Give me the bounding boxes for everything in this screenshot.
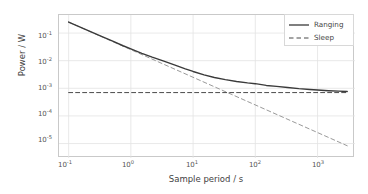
y-tick-label-4: 10-5 xyxy=(18,136,52,144)
y-tick-label-0: 10-1 xyxy=(18,32,52,40)
legend-label-sleep: Sleep xyxy=(314,33,334,42)
x-tick-label-3: 102 xyxy=(239,161,271,169)
x-tick-label-0: 10-1 xyxy=(49,161,81,169)
x-tick-label-4: 103 xyxy=(302,161,334,169)
y-tick-label-1: 10-2 xyxy=(18,58,52,66)
x-tick-label-2: 101 xyxy=(176,161,208,169)
figure: Power / W 10-1 10-2 10-3 10-4 10-5 10-1 … xyxy=(0,0,368,194)
legend: Ranging Sleep xyxy=(284,14,354,46)
legend-item-sleep: Sleep xyxy=(289,31,349,44)
legend-label-ranging: Ranging xyxy=(314,20,343,29)
x-axis-label: Sample period / s xyxy=(58,174,354,184)
legend-item-ranging: Ranging xyxy=(289,18,349,31)
x-tick-label-1: 100 xyxy=(112,161,144,169)
legend-swatch-dashed-icon xyxy=(289,34,309,42)
y-tick-label-2: 10-3 xyxy=(18,84,52,92)
legend-swatch-solid-icon xyxy=(289,21,309,29)
y-tick-label-3: 10-4 xyxy=(18,110,52,118)
